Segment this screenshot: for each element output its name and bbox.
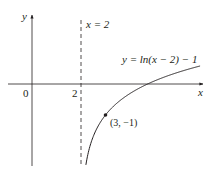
origin-label: 0 (23, 87, 29, 99)
tick-label-2: 2 (72, 87, 78, 99)
asymptote-label: x = 2 (85, 18, 110, 30)
log-curve (86, 66, 200, 165)
function-graph: y x 0 2 x = 2 y = ln(x − 2) − 1 (3, −1) (0, 0, 210, 173)
curve-label: y = ln(x − 2) − 1 (121, 53, 197, 66)
y-axis-label: y (21, 10, 27, 22)
point-label: (3, −1) (110, 117, 137, 129)
point-marker (104, 113, 108, 117)
x-axis-label: x (197, 86, 203, 98)
